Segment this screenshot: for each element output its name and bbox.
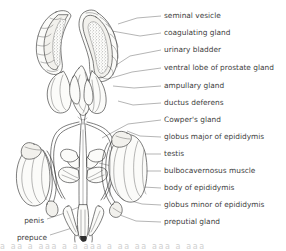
label-seminal-vesicle: seminal vesicle bbox=[164, 11, 221, 20]
label-bulbocavernosus-muscle: bulbocavernosus muscle bbox=[164, 166, 256, 175]
label-globus-minor-of-epididymis: globus minor of epididymis bbox=[164, 200, 265, 209]
ventral-lobe-of-prostate-gland-left bbox=[47, 71, 71, 113]
label-list-left: penis prepuce bbox=[17, 216, 48, 242]
label-penis: penis bbox=[24, 216, 44, 225]
label-prepuce: prepuce bbox=[17, 233, 48, 242]
cropped-caption: a aa a aaa a a aaa a aa aa aaa a aaa bbox=[0, 242, 286, 251]
label-urinary-bladder: urinary bladder bbox=[164, 45, 222, 54]
preputial-gland-left bbox=[63, 206, 78, 236]
label-preputial-gland: preputial gland bbox=[164, 217, 220, 226]
urethra-column bbox=[79, 124, 87, 218]
anatomical-figure: seminal vesicle coagulating gland urinar… bbox=[0, 0, 286, 251]
label-body-of-epididymis: body of epididymis bbox=[164, 183, 234, 192]
label-ventral-lobe-of-prostate-gland: ventral lobe of prostate gland bbox=[164, 63, 274, 72]
label-ampullary-gland: ampullary gland bbox=[164, 81, 224, 90]
label-list-right: seminal vesicle coagulating gland urinar… bbox=[164, 11, 274, 226]
penis bbox=[77, 205, 88, 242]
seminal-vesicle-left bbox=[36, 11, 71, 75]
preputial-gland-right bbox=[89, 206, 104, 236]
label-cowpers-gland: Cowper's gland bbox=[164, 115, 221, 124]
label-ductus-deferens: ductus deferens bbox=[164, 98, 224, 107]
label-globus-major-of-epididymis: globus major of epididymis bbox=[164, 132, 264, 141]
label-coagulating-gland: coagulating gland bbox=[164, 28, 231, 37]
label-testis: testis bbox=[164, 149, 184, 158]
